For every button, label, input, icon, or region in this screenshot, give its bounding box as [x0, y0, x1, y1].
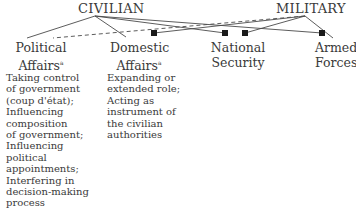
domestic-affairs-label-2: Affairs — [116, 58, 158, 73]
military-node: MILITARY — [276, 1, 346, 16]
marker-national-1 — [222, 30, 228, 36]
armed-forces-label-1: Armed — [315, 40, 355, 55]
national-security-label-1: National — [210, 40, 266, 55]
domestic-affairs-description: Expanding or extended role; Acting as in… — [107, 72, 180, 140]
armed-forces-label-2: Forces — [315, 55, 355, 70]
civilian-node: CIVILIAN — [78, 1, 145, 16]
domestic-affairs-node: Domestic Affairsa — [110, 40, 168, 73]
marker-national-2 — [242, 30, 248, 36]
national-security-node: National Security — [210, 40, 266, 70]
political-affairs-label-1: Political — [12, 40, 70, 55]
political-affairs-label-2: Affairs — [18, 58, 60, 73]
footnote-marker: a — [60, 59, 64, 66]
armed-forces-node: Armed Forces — [315, 40, 355, 70]
marker-domestic — [151, 30, 157, 36]
marker-armed — [319, 30, 325, 36]
footnote-marker: a — [158, 59, 162, 66]
national-security-label-2: Security — [210, 55, 266, 70]
political-affairs-node: Political Affairsa — [12, 40, 70, 73]
political-affairs-description: Taking control of government (coup d'éta… — [6, 72, 89, 209]
domestic-affairs-label-1: Domestic — [110, 40, 168, 55]
